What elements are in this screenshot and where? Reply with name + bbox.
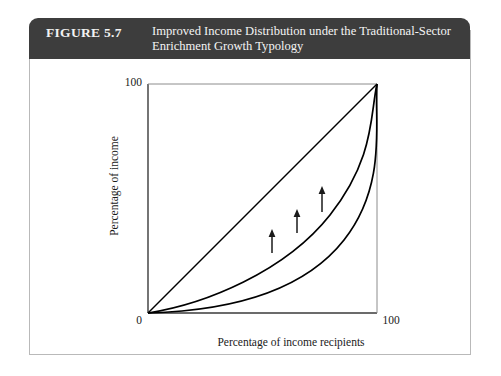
figure-header-banner: FIGURE 5.7 Improved Income Distribution … — [29, 18, 470, 59]
figure-title-line-1: Improved Income Distribution under the T… — [152, 24, 451, 38]
figure-frame — [29, 30, 471, 355]
figure-root: FIGURE 5.7 Improved Income Distribution … — [0, 0, 501, 376]
figure-title-line-2: Enrichment Growth Typology — [152, 39, 462, 54]
figure-title: Improved Income Distribution under the T… — [152, 24, 462, 54]
figure-number-label: FIGURE 5.7 — [46, 25, 122, 41]
